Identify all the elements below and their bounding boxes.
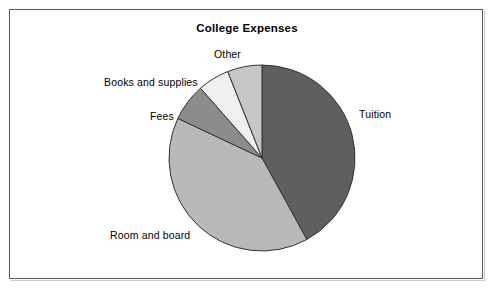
- slice-label-other: Other: [214, 48, 241, 60]
- slice-label-books-and-supplies: Books and supplies: [104, 76, 198, 88]
- chart-screenshot: College Expenses Other Books and supplie…: [0, 0, 494, 290]
- slice-label-fees: Fees: [150, 110, 174, 122]
- pie-slice-group: [169, 65, 355, 251]
- slice-label-tuition: Tuition: [359, 108, 391, 120]
- pie-svg: [0, 0, 494, 290]
- pie-chart: Other Books and supplies Fees Tuition Ro…: [0, 0, 494, 290]
- slice-label-room-and-board: Room and board: [110, 229, 190, 241]
